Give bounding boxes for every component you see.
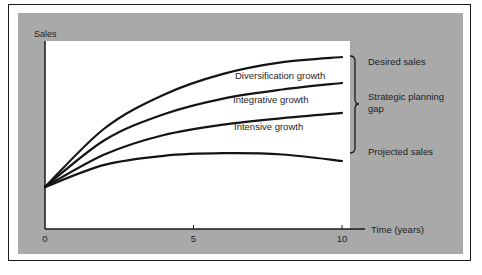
- band-label-diversification: Diversification growth: [235, 70, 325, 81]
- annotation-gap-line1: Strategic planning: [368, 91, 444, 102]
- band-label-integrative: Integrative growth: [233, 94, 309, 105]
- y-axis-label: Sales: [34, 29, 57, 39]
- curve-projected-sales: [45, 153, 342, 187]
- x-tick-label-5: 5: [191, 233, 196, 244]
- annotation-gap-line2: gap: [368, 103, 384, 114]
- annotation-projected-sales: Projected sales: [368, 146, 433, 157]
- x-tick-label-10: 10: [337, 233, 348, 244]
- band-label-intensive: Intensive growth: [234, 121, 303, 132]
- gap-brace: [350, 56, 359, 153]
- annotation-desired-sales: Desired sales: [368, 56, 426, 67]
- strategic-gap-chart: 0510 Sales Time (years) Diversification …: [0, 0, 482, 275]
- x-tick-label-0: 0: [42, 233, 47, 244]
- x-axis-label: Time (years): [371, 224, 424, 235]
